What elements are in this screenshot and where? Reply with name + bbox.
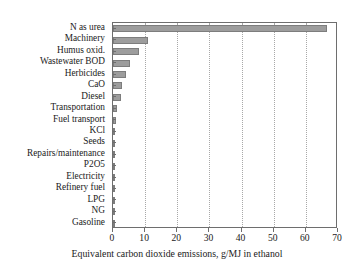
x-axis-tick-label: 30: [204, 232, 214, 243]
x-axis-tick-label: 40: [236, 232, 246, 243]
x-axis-tick-label: 70: [332, 232, 342, 243]
y-axis-tick-label: N as urea: [70, 22, 105, 33]
y-axis-tick: [112, 165, 116, 166]
x-axis-tick-label: 10: [139, 232, 149, 243]
x-axis-tick-label: 20: [171, 232, 181, 243]
bar-row: [113, 172, 338, 183]
bar: [113, 82, 122, 89]
bar: [113, 163, 115, 170]
y-axis-tick: [112, 74, 116, 75]
y-axis-tick: [112, 131, 116, 132]
bar: [113, 94, 121, 101]
y-axis-tick: [112, 39, 116, 40]
y-axis-tick-label: NG: [92, 205, 105, 216]
y-axis-tick: [112, 28, 116, 29]
y-axis-tick: [112, 85, 116, 86]
bar-chart: N as ureaMachineryHumus oxid.Wastewater …: [0, 0, 354, 275]
y-axis-tick: [112, 51, 116, 52]
bar: [113, 117, 116, 124]
y-axis-tick-label: Repairs/maintenance: [27, 148, 105, 159]
y-axis-tick: [112, 62, 116, 63]
bar: [113, 37, 148, 44]
y-axis-tick-label: CaO: [88, 79, 105, 90]
bar-row: [113, 34, 338, 45]
y-axis-tick-label: LPG: [87, 194, 105, 205]
y-axis-tick-label: Refinery fuel: [56, 182, 105, 193]
y-axis-tick-label: Wastewater BOD: [40, 56, 105, 67]
bars: [113, 23, 336, 227]
y-axis-tick-label: KCl: [90, 125, 106, 136]
bar: [113, 60, 130, 67]
y-axis-tick-label: Diesel: [81, 91, 105, 102]
bar-row: [113, 149, 338, 160]
bar-row: [113, 126, 338, 137]
y-axis-tick: [112, 222, 116, 223]
bar-row: [113, 206, 338, 217]
bar: [113, 197, 115, 204]
y-axis-tick-label: Gasoline: [72, 217, 105, 228]
y-axis-tick-label: Transportation: [51, 102, 105, 113]
bar-row: [113, 57, 338, 68]
y-axis-labels: N as ureaMachineryHumus oxid.Wastewater …: [0, 22, 109, 228]
y-axis-tick: [112, 142, 116, 143]
y-axis-tick: [112, 154, 116, 155]
bar: [113, 140, 115, 147]
bar-row: [113, 195, 338, 206]
y-axis-tick-label: Fuel transport: [53, 114, 105, 125]
bar-row: [113, 183, 338, 194]
y-axis-tick: [112, 199, 116, 200]
plot-area: [112, 22, 337, 228]
bar: [113, 128, 115, 135]
y-axis-tick-label: Herbicides: [65, 68, 105, 79]
y-axis-tick: [112, 177, 116, 178]
y-axis-tick: [112, 188, 116, 189]
x-axis-tick-label: 60: [300, 232, 310, 243]
y-axis-tick-label: Machinery: [65, 33, 105, 44]
bar-row: [113, 103, 338, 114]
bar-row: [113, 137, 338, 148]
bar: [113, 185, 115, 192]
y-axis-tick-label: Seeds: [83, 136, 105, 147]
bar-row: [113, 46, 338, 57]
bar: [113, 208, 115, 215]
y-axis-tick-label: P2O5: [84, 159, 105, 170]
bar-row: [113, 92, 338, 103]
y-axis-tick: [112, 211, 116, 212]
bar-row: [113, 23, 338, 34]
x-axis-tick-label: 50: [268, 232, 278, 243]
y-axis-tick: [112, 119, 116, 120]
bar: [113, 48, 139, 55]
y-axis-tick: [112, 96, 116, 97]
y-axis-tick-label: Electricity: [66, 171, 105, 182]
bar: [113, 105, 117, 112]
bar-row: [113, 69, 338, 80]
x-axis-tick-label: 0: [110, 232, 115, 243]
bar-row: [113, 80, 338, 91]
y-axis-tick: [112, 108, 116, 109]
bar: [113, 25, 327, 32]
y-axis-tick-label: Humus oxid.: [57, 45, 105, 56]
bar-row: [113, 160, 338, 171]
bar: [113, 220, 115, 227]
bar-row: [113, 115, 338, 126]
x-axis-title: Equivalent carbon dioxide emissions, g/M…: [0, 248, 354, 259]
